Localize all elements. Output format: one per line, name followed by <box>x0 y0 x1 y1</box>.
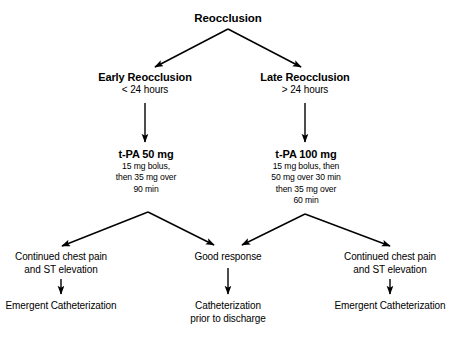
tpa-100mg-title: t-PA 100 mg <box>271 148 340 161</box>
node-early-reocclusion: Early Reocclusion < 24 hours <box>98 71 192 96</box>
center-outcome-action-line-2: prior to discharge <box>190 312 265 325</box>
arrow-tpa50-to-good-response <box>148 212 214 245</box>
arrow-root-to-late <box>228 29 301 67</box>
arrow-tpa100-to-right-outcome <box>305 214 390 246</box>
node-tpa-100mg: t-PA 100 mg 15 mg bolus, then 50 mg over… <box>271 148 340 206</box>
left-outcome-condition-line-2: and ST elevation <box>15 263 107 276</box>
root-label: Reocclusion <box>194 12 261 26</box>
node-center-outcome-action: Catheterization prior to discharge <box>190 299 265 325</box>
node-left-outcome-condition: Continued chest pain and ST elevation <box>15 250 107 276</box>
node-right-outcome-condition: Continued chest pain and ST elevation <box>344 250 436 276</box>
early-reocclusion-timing: < 24 hours <box>98 84 192 96</box>
tpa-50mg-detail-2: then 35 mg over <box>116 172 177 183</box>
arrow-tpa50-to-left-outcome <box>62 212 148 246</box>
right-outcome-condition-line-1: Continued chest pain <box>344 250 436 263</box>
node-left-outcome-action: Emergent Catheterization <box>6 299 117 312</box>
tpa-50mg-detail-1: 15 mg bolus, <box>116 161 177 172</box>
early-reocclusion-label: Early Reocclusion <box>98 71 192 84</box>
node-late-reocclusion: Late Reocclusion > 24 hours <box>260 71 349 96</box>
arrow-tpa100-to-good-response <box>242 214 305 245</box>
late-reocclusion-timing: > 24 hours <box>260 84 349 96</box>
node-center-outcome-condition: Good response <box>194 250 261 263</box>
left-outcome-action-line-1: Emergent Catheterization <box>6 299 117 312</box>
center-outcome-action-line-1: Catheterization <box>190 299 265 312</box>
tpa-100mg-detail-4: 60 min <box>271 195 340 206</box>
flowchart-connectors <box>0 0 475 343</box>
flowchart-reocclusion-treatment: Reocclusion Early Reocclusion < 24 hours… <box>0 0 475 343</box>
node-root-reocclusion: Reocclusion <box>194 12 261 26</box>
tpa-100mg-detail-3: then 35 mg over <box>271 184 340 195</box>
center-outcome-condition-line-1: Good response <box>194 250 261 263</box>
late-reocclusion-label: Late Reocclusion <box>260 71 349 84</box>
node-right-outcome-action: Emergent Catheterization <box>335 299 446 312</box>
tpa-50mg-detail-3: 90 min <box>116 184 177 195</box>
tpa-100mg-detail-2: 50 mg over 30 min <box>271 172 340 183</box>
tpa-100mg-detail-1: 15 mg bolus, then <box>271 161 340 172</box>
right-outcome-condition-line-2: and ST elevation <box>344 263 436 276</box>
left-outcome-condition-line-1: Continued chest pain <box>15 250 107 263</box>
right-outcome-action-line-1: Emergent Catheterization <box>335 299 446 312</box>
arrow-root-to-early <box>155 29 228 67</box>
tpa-50mg-title: t-PA 50 mg <box>116 148 177 161</box>
node-tpa-50mg: t-PA 50 mg 15 mg bolus, then 35 mg over … <box>116 148 177 195</box>
